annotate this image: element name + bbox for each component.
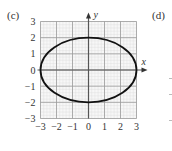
adjacent-panel-tick <box>169 94 172 95</box>
y-tick-label: −3 <box>25 113 36 124</box>
y-tick-label: −2 <box>25 97 36 108</box>
x-tick-label: 1 <box>102 121 107 132</box>
ellipse-plot: xy−3−2−101233210−1−2−3 <box>0 0 172 151</box>
x-tick-label: −3 <box>35 121 46 132</box>
y-tick-label: 1 <box>31 48 36 59</box>
y-axis-label: y <box>93 9 99 20</box>
y-axis-arrow-icon <box>86 13 91 19</box>
x-axis-arrow-icon <box>142 68 148 73</box>
adjacent-panel-tick <box>169 78 172 79</box>
y-tick-label: −1 <box>25 81 36 92</box>
x-tick-label: 0 <box>86 121 91 132</box>
x-tick-label: 2 <box>118 121 123 132</box>
x-axis-label: x <box>141 56 147 67</box>
x-tick-label: 3 <box>134 121 139 132</box>
y-tick-label: 0 <box>31 65 36 76</box>
x-tick-label: −1 <box>67 121 78 132</box>
y-tick-label: 3 <box>31 16 36 27</box>
y-tick-label: 2 <box>31 32 36 43</box>
x-tick-label: −2 <box>51 121 62 132</box>
adjacent-panel-tick <box>169 120 172 121</box>
